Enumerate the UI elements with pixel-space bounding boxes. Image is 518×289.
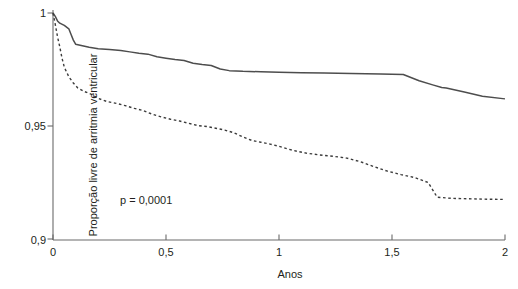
y-axis-title: Proporção livre de arritmia ventricular (87, 53, 99, 236)
x-tick-label-15: 1,5 (384, 247, 399, 258)
x-tick-label-05: 0,5 (158, 247, 173, 258)
y-tick-label-1: 1 (40, 8, 46, 19)
y-tick-label-09: 0,9 (31, 235, 46, 246)
x-tick-label-0: 0 (50, 247, 56, 258)
x-axis-title: Anos (277, 268, 302, 280)
plot-area (0, 0, 518, 289)
y-tick-label-095: 0,95 (25, 121, 46, 132)
data-series-group (53, 13, 505, 199)
pvalue-annotation: p = 0,0001 (120, 194, 172, 206)
survival-chart-figure: 1 0,95 0,9 0 0,5 1 1,5 2 Proporção livre… (0, 0, 518, 289)
x-tick-label-2: 2 (502, 247, 508, 258)
x-tick-label-1: 1 (276, 247, 282, 258)
dashed-curve (53, 13, 505, 199)
solid-curve (53, 13, 505, 99)
axis-ticks (48, 13, 506, 240)
